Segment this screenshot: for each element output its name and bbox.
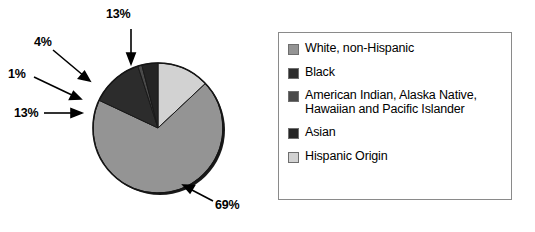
legend-label-black: Black	[305, 66, 335, 80]
legend-item-american-indian: American Indian, Alaska Native, Hawaiian…	[288, 89, 505, 116]
legend-item-black: Black	[288, 66, 505, 80]
legend-box: White, non-Hispanic Black American India…	[278, 32, 512, 200]
arrow-head-black	[71, 109, 82, 118]
legend-item-hispanic-origin: Hispanic Origin	[288, 150, 505, 164]
legend-swatch-asian	[288, 128, 299, 139]
legend-swatch-american-indian	[288, 91, 299, 102]
legend-label-american-indian-line2: Hawaiian and Pacific Islander	[305, 103, 477, 117]
arrow-line-white	[190, 189, 213, 201]
legend-swatch-hispanic-origin	[288, 152, 299, 163]
arrow-line-asian	[53, 50, 84, 76]
pie-chart-area: 13% 4% 1% 13% 69%	[0, 0, 270, 232]
legend-items: White, non-Hispanic Black American India…	[288, 42, 505, 163]
legend-item-white-non-hispanic: White, non-Hispanic	[288, 42, 505, 56]
arrow-line-aian	[34, 77, 74, 96]
arrow-head-hispanic	[127, 53, 135, 64]
callout-label-black: 13%	[14, 107, 38, 120]
callout-label-white-non-hispanic: 69%	[215, 199, 239, 212]
legend-label-american-indian-line1: American Indian, Alaska Native,	[305, 88, 477, 102]
legend-label-asian: Asian	[305, 126, 336, 140]
legend-item-asian: Asian	[288, 126, 505, 140]
callout-label-american-indian: 1%	[8, 68, 26, 81]
legend-swatch-black	[288, 68, 299, 79]
legend-label-american-indian: American Indian, Alaska Native, Hawaiian…	[305, 89, 477, 116]
legend-label-white-non-hispanic: White, non-Hispanic	[305, 42, 414, 56]
legend-swatch-white-non-hispanic	[288, 44, 299, 55]
pie-chart-figure: 13% 4% 1% 13% 69% White, non-Hispanic Bl…	[0, 0, 535, 232]
arrow-head-aian	[70, 92, 82, 100]
callout-label-hispanic-origin: 13%	[106, 8, 130, 21]
callout-label-asian: 4%	[34, 36, 52, 49]
legend-label-hispanic-origin: Hispanic Origin	[305, 150, 388, 164]
